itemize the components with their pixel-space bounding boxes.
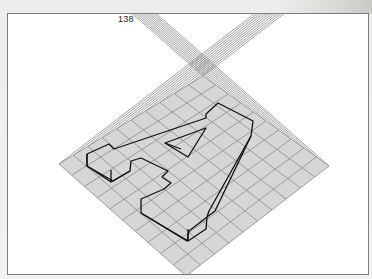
page-curl-shadow	[282, 0, 372, 14]
isometric-letter-a-illustration	[8, 14, 369, 275]
figure-frame	[7, 13, 369, 275]
ground-grid	[59, 76, 329, 275]
page-number: 138	[118, 14, 134, 24]
